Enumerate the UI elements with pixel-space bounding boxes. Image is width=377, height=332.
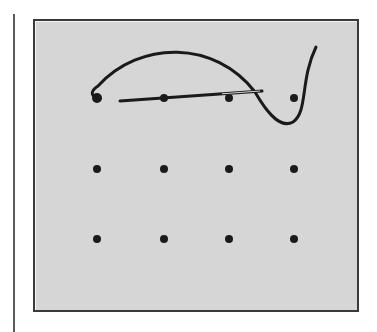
grid-dot [290,165,298,173]
grid-dot [290,94,298,102]
stitch-diagram [0,0,377,332]
thread-curve [92,47,316,124]
thread-knot [92,93,102,103]
dot-grid [93,94,298,243]
grid-dot [93,235,101,243]
grid-dot [290,235,298,243]
grid-dot [225,94,233,102]
grid-dot [225,165,233,173]
grid-dot [160,165,168,173]
grid-dot [93,165,101,173]
grid-dot [160,235,168,243]
needle-icon [120,91,262,101]
grid-dot [225,235,233,243]
